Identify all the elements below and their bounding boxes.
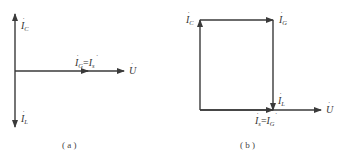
dot-is-b: · bbox=[257, 110, 259, 118]
dot-ig-b: · bbox=[281, 9, 283, 17]
dot-ig2-b: · bbox=[275, 110, 277, 118]
diagram-b: IC · IG · IL · Is=IG · · U · ( b ) bbox=[185, 9, 334, 150]
dot-ic-b: · bbox=[188, 9, 190, 17]
caption-a: ( a ) bbox=[62, 140, 77, 150]
dot-u-b: · bbox=[328, 99, 330, 107]
dot-il-a: · bbox=[23, 108, 25, 116]
dot-u-a: · bbox=[131, 60, 133, 68]
dot-is-a: · bbox=[96, 52, 98, 60]
dot-ig-a: · bbox=[77, 52, 79, 60]
phasor-diagrams: IC · IL · IG=Is · · U · ( a ) IC · IG · … bbox=[0, 0, 343, 160]
dot-il-b: · bbox=[280, 90, 282, 98]
dot-ic-a: · bbox=[23, 15, 25, 23]
diagram-a: IC · IL · IG=Is · · U · ( a ) bbox=[15, 14, 137, 150]
caption-b: ( b ) bbox=[240, 140, 255, 150]
